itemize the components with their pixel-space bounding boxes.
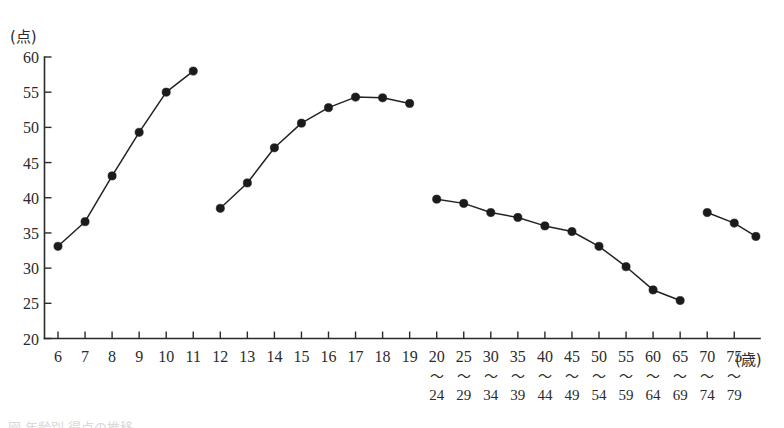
x-tick-label: 30	[483, 348, 499, 365]
x-range-end-label: 24	[429, 387, 445, 403]
data-point-marker	[135, 128, 143, 136]
x-tick-label: 19	[402, 348, 418, 365]
y-tick-label: 30	[23, 260, 39, 277]
x-range-separator: 〜	[511, 369, 525, 384]
data-point-marker	[351, 93, 359, 101]
data-point-marker	[649, 286, 657, 294]
x-range-end-label: 59	[619, 387, 634, 403]
x-tick-label: 35	[510, 348, 526, 365]
x-range-end-label: 64	[646, 387, 662, 403]
x-range-separator: 〜	[619, 369, 633, 384]
x-tick-label: 12	[212, 348, 228, 365]
data-point-marker	[622, 263, 630, 271]
x-tick-label: 6	[54, 348, 62, 365]
x-tick-label: 9	[135, 348, 143, 365]
x-range-end-label: 54	[592, 387, 608, 403]
chart-container: (点) 202530354045505560 67891011121314151…	[0, 0, 784, 428]
x-range-end-label: 39	[510, 387, 525, 403]
x-tick-label: 10	[158, 348, 174, 365]
x-tick-label: 40	[537, 348, 553, 365]
y-tick-label: 25	[23, 295, 39, 312]
x-axis-range-labels: 〜24〜29〜34〜39〜44〜49〜54〜59〜64〜69〜74〜79	[429, 369, 742, 403]
data-point-marker	[514, 213, 522, 221]
x-range-separator: 〜	[457, 369, 471, 384]
x-tick-label: 70	[699, 348, 715, 365]
x-tick-label: 16	[321, 348, 337, 365]
x-tick-label: 8	[108, 348, 116, 365]
y-tick-label: 50	[23, 119, 39, 136]
series-line-segment-2	[220, 97, 409, 208]
x-axis-unit-label: (歳)	[735, 351, 762, 369]
x-tick-label: 15	[293, 348, 309, 365]
x-range-separator: 〜	[646, 369, 660, 384]
y-tick-label: 60	[23, 49, 39, 66]
x-range-separator: 〜	[565, 369, 579, 384]
data-point-marker	[406, 99, 414, 107]
x-tick-label: 13	[239, 348, 255, 365]
y-axis-ticks	[45, 57, 52, 339]
x-range-separator: 〜	[484, 369, 498, 384]
data-point-marker	[487, 208, 495, 216]
x-axis-ticks	[58, 332, 734, 339]
x-tick-label: 20	[429, 348, 445, 365]
x-tick-label: 17	[348, 348, 364, 365]
x-range-end-label: 29	[456, 387, 471, 403]
x-range-end-label: 49	[564, 387, 579, 403]
y-axis-unit-label: (点)	[10, 28, 37, 46]
x-range-end-label: 69	[673, 387, 688, 403]
data-point-marker	[54, 242, 62, 250]
x-range-end-label: 79	[727, 387, 742, 403]
data-point-marker	[243, 179, 251, 187]
y-tick-label: 55	[23, 84, 39, 101]
x-range-separator: 〜	[592, 369, 606, 384]
data-point-marker	[595, 242, 603, 250]
x-tick-label: 50	[591, 348, 607, 365]
data-point-marker	[433, 195, 441, 203]
data-point-marker	[752, 232, 760, 240]
data-point-marker	[297, 119, 305, 127]
x-range-end-label: 44	[537, 387, 553, 403]
data-point-marker	[541, 222, 549, 230]
y-tick-label: 20	[23, 331, 39, 348]
x-tick-label: 65	[672, 348, 688, 365]
series-line-segment-1	[58, 71, 193, 246]
data-point-marker	[108, 172, 116, 180]
data-point-marker	[162, 88, 170, 96]
data-point-marker	[676, 296, 684, 304]
x-tick-label: 18	[375, 348, 391, 365]
data-point-marker	[189, 67, 197, 75]
x-tick-label: 55	[618, 348, 634, 365]
line-chart: (点) 202530354045505560 67891011121314151…	[0, 0, 784, 428]
x-range-end-label: 74	[700, 387, 716, 403]
x-range-end-label: 34	[483, 387, 499, 403]
x-range-separator: 〜	[700, 369, 714, 384]
x-tick-label: 7	[81, 348, 89, 365]
x-axis-tick-labels: 6789101112131415161718192025303540455055…	[54, 348, 742, 365]
axes	[45, 57, 761, 339]
y-axis-tick-labels: 202530354045505560	[23, 49, 39, 348]
data-point-marker	[270, 144, 278, 152]
x-range-separator: 〜	[430, 369, 444, 384]
data-point-marker	[703, 208, 711, 216]
x-range-separator: 〜	[727, 369, 741, 384]
x-range-separator: 〜	[673, 369, 687, 384]
data-point-marker	[379, 94, 387, 102]
y-tick-label: 40	[23, 190, 39, 207]
y-tick-label: 45	[23, 155, 39, 172]
y-tick-label: 35	[23, 225, 39, 242]
data-point-marker	[81, 218, 89, 226]
x-tick-label: 25	[456, 348, 472, 365]
data-point-marker	[216, 204, 224, 212]
data-point-marker	[324, 104, 332, 112]
data-point-marker	[568, 227, 576, 235]
data-point-marker	[730, 219, 738, 227]
data-point-marker	[460, 199, 468, 207]
x-tick-label: 60	[645, 348, 661, 365]
x-tick-label: 11	[186, 348, 201, 365]
x-tick-label: 45	[564, 348, 580, 365]
footer-fragment: 図 年齢別 得点の推移	[8, 416, 308, 428]
x-range-separator: 〜	[538, 369, 552, 384]
series-line-segment-3	[437, 199, 680, 300]
x-tick-label: 14	[266, 348, 282, 365]
